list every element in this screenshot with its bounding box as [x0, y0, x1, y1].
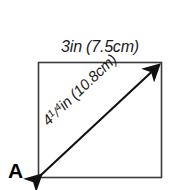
figure-letter-label: A	[8, 160, 23, 181]
diagram-canvas	[0, 0, 194, 190]
figure-square-a: 3in (7.5cm) 41/4in (10.8cm) A	[0, 0, 194, 190]
